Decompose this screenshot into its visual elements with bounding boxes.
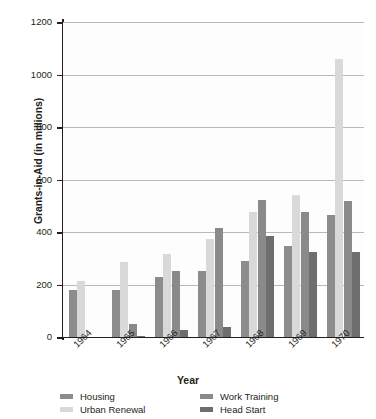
bar (137, 336, 145, 337)
y-axis-title: Grants-in-Aid (in millions) (32, 46, 44, 276)
bar (266, 236, 274, 337)
bar (327, 215, 335, 337)
gridline (63, 22, 364, 23)
gridline (63, 75, 364, 76)
bar (284, 246, 292, 337)
x-axis-title: Year (0, 374, 376, 386)
bar (309, 252, 317, 337)
legend-item-urban-renewal[interactable]: Urban Renewal (60, 403, 188, 416)
gridline (63, 180, 364, 181)
plot-area (63, 22, 364, 337)
y-tick-label: 600 (12, 174, 52, 185)
gridline (63, 232, 364, 233)
bar (352, 252, 360, 337)
bar (112, 290, 120, 337)
legend-swatch-icon (60, 394, 73, 399)
legend-label: Housing (80, 390, 115, 403)
bar (223, 327, 231, 338)
legend-swatch-icon (200, 394, 213, 399)
y-tick-label: 800 (12, 121, 52, 132)
bar (241, 261, 249, 337)
bar (249, 212, 257, 337)
bar (180, 330, 188, 337)
legend-swatch-icon (200, 407, 213, 412)
bar (155, 277, 163, 337)
y-tick-label: 0 (12, 331, 52, 342)
bar (344, 201, 352, 338)
bar (69, 290, 77, 337)
legend-item-work-training[interactable]: Work Training (200, 390, 328, 403)
bar (206, 239, 214, 337)
bar (301, 212, 309, 337)
legend-item-housing[interactable]: Housing (60, 390, 188, 403)
bar (335, 59, 343, 337)
bar (198, 271, 206, 337)
y-tick-label: 1000 (12, 69, 52, 80)
y-tick-mark (57, 337, 63, 339)
grants-in-aid-bar-chart: Grants-in-Aid (in millions) 020040060080… (0, 0, 376, 419)
bar (292, 195, 300, 337)
legend-label: Urban Renewal (80, 403, 145, 416)
chart-legend: HousingWork TrainingUrban RenewalHead St… (60, 390, 350, 416)
gridline (63, 127, 364, 128)
bar (120, 262, 128, 337)
legend-item-head-start[interactable]: Head Start (200, 403, 328, 416)
legend-label: Work Training (220, 390, 278, 403)
bar (215, 228, 223, 337)
legend-swatch-icon (60, 407, 73, 412)
y-tick-label: 400 (12, 226, 52, 237)
bar (163, 254, 171, 337)
bar (258, 200, 266, 337)
legend-label: Head Start (220, 403, 265, 416)
y-tick-label: 1200 (12, 16, 52, 27)
y-tick-label: 200 (12, 279, 52, 290)
